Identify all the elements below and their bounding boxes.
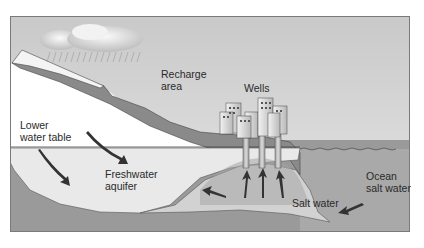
- label-wells: Wells: [244, 82, 269, 94]
- label-lower-water-table: Lower water table: [20, 119, 71, 143]
- label-ocean-salt-water: Ocean salt water: [366, 170, 411, 194]
- label-recharge-area: Recharge area: [161, 68, 207, 92]
- label-freshwater-aquifer: Freshwater aquifer: [105, 168, 158, 192]
- label-salt-water: Salt water: [292, 197, 339, 209]
